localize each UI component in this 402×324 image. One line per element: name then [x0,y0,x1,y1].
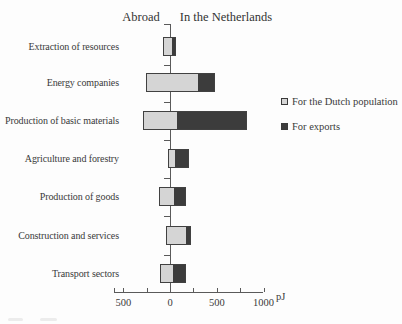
legend-label-exports: For exports [292,121,340,132]
bar-segment-dutch-population [167,227,186,244]
category-label: Transport sectors [0,268,119,279]
category-label: Agriculture and forestry [0,153,119,164]
category-label: Production of basic materials [0,115,119,126]
category-label-text: Production of goods [40,191,119,202]
category-label: Extraction of resources [0,41,119,52]
category-label: Energy companies [0,77,119,88]
category-label-text: Production of basic materials [5,115,119,126]
category-label-text: Energy companies [47,77,119,88]
bar-transport-sectors [160,264,186,283]
value-axis-tick [193,288,194,292]
value-axis-tick-label: 500 [105,297,141,308]
bar-segment-dutch-population [164,38,172,55]
legend-swatch-dark-icon [281,123,288,130]
bar-segment-exports [173,265,185,282]
value-axis-tick-label: 500 [199,297,235,308]
bar-segment-exports [186,227,190,244]
bar-segment-dutch-population [147,74,197,91]
bar-construction-and-services [166,226,191,245]
energy-use-chart-figure: Abroad In the Netherlands Extraction of … [0,0,402,324]
category-label-text: Construction and services [18,230,119,241]
value-axis-tick [240,288,241,292]
header-netherlands-label: In the Netherlands [176,10,276,25]
category-label-text: Extraction of resources [29,41,119,52]
bar-segment-dutch-population [160,188,174,205]
bar-segment-exports [174,188,185,205]
bar-production-of-basic-materials [143,111,246,130]
value-axis-tick [217,288,218,292]
legend-item-dutch-population: For the Dutch population [281,96,398,107]
category-axis-tick [164,216,171,217]
bar-segment-dutch-population [144,112,177,129]
bar-production-of-goods [159,187,186,206]
category-axis-tick [164,255,171,256]
value-axis-tick-label: 0 [152,297,188,308]
header-abroad-label: Abroad [101,10,181,25]
bar-segment-exports [198,74,215,91]
axis-unit-label: pJ [276,291,285,302]
bar-segment-exports [172,38,175,55]
value-axis-line [114,292,264,293]
value-axis-tick [264,288,265,292]
category-axis-tick [164,178,171,179]
bar-energy-companies [146,73,215,92]
legend-swatch-light-icon [281,98,288,105]
value-axis-tick [147,288,148,292]
bar-agriculture-and-forestry [168,149,189,168]
category-axis-tick [164,140,171,141]
category-axis-tick [164,24,171,25]
scan-artifact [8,318,23,321]
bar-segment-dutch-population [161,265,173,282]
bar-segment-exports [177,112,246,129]
scan-artifact [40,318,57,321]
category-label: Production of goods [0,191,119,202]
category-label-text: Transport sectors [52,268,119,279]
category-label-text: Agriculture and forestry [25,153,119,164]
category-axis-tick [164,102,171,103]
category-axis-tick [164,65,171,66]
bar-extraction-of-resources [163,37,176,56]
legend-item-exports: For exports [281,121,340,132]
legend-label-dutch-population: For the Dutch population [292,96,398,107]
value-axis-tick [123,288,124,292]
value-axis-tick [114,288,115,292]
category-label: Construction and services [0,230,119,241]
bar-segment-exports [175,150,188,167]
